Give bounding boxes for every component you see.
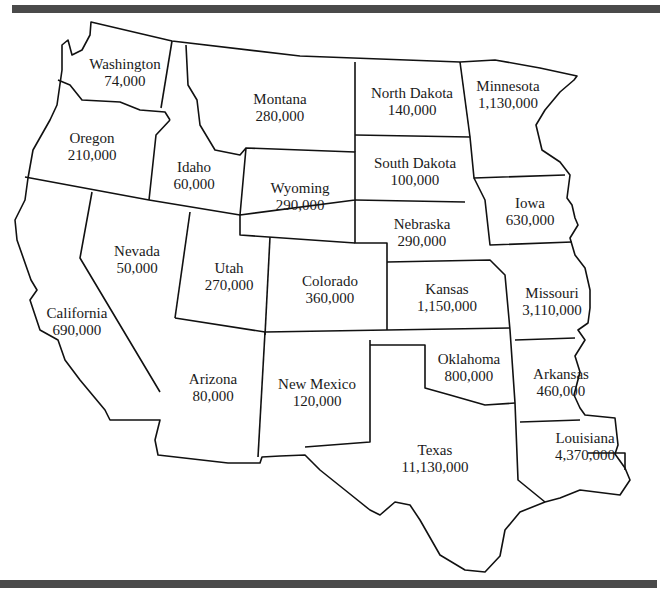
state-value: 50,000: [114, 260, 160, 277]
state-name: Idaho: [173, 159, 214, 176]
state-label-washington: Washington74,000: [89, 56, 160, 90]
state-name: Oklahoma: [438, 351, 500, 368]
state-name: Minnesota: [476, 78, 539, 95]
state-label-california: California690,000: [47, 305, 108, 339]
nd-mn-border: [460, 62, 470, 137]
four-corners-border: [175, 318, 510, 332]
or-id-border: [149, 120, 170, 200]
state-value: 1,130,000: [476, 95, 539, 112]
state-value: 270,000: [205, 277, 254, 294]
sd-ia-border: [470, 137, 565, 178]
state-name: California: [47, 305, 108, 322]
wa-id-border: [161, 41, 172, 108]
state-label-south-dakota: South Dakota100,000: [374, 155, 456, 189]
sd-ne-border: [355, 200, 465, 202]
ut-co-top: [240, 215, 355, 243]
state-value: 100,000: [374, 172, 456, 189]
state-name: North Dakota: [371, 85, 453, 102]
state-label-texas: Texas11,130,000: [402, 442, 469, 476]
state-value: 690,000: [47, 322, 108, 339]
id-mt-border: [186, 45, 246, 155]
state-label-iowa: Iowa630,000: [506, 195, 555, 229]
state-value: 290,000: [270, 197, 329, 214]
state-label-montana: Montana280,000: [253, 91, 306, 125]
state-name: Arkansas: [533, 366, 589, 383]
bottom-rule: [0, 580, 657, 588]
state-name: New Mexico: [278, 376, 356, 393]
state-name: South Dakota: [374, 155, 456, 172]
state-name: Colorado: [302, 273, 358, 290]
state-value: 1,150,000: [417, 298, 477, 315]
state-label-oregon: Oregon210,000: [68, 130, 117, 164]
state-label-minnesota: Minnesota1,130,000: [476, 78, 539, 112]
mo-ar-border: [515, 338, 575, 340]
state-label-new-mexico: New Mexico120,000: [278, 376, 356, 410]
state-name: Kansas: [417, 281, 477, 298]
nd-sd-border: [355, 135, 470, 137]
state-value: 80,000: [189, 388, 237, 405]
state-label-wyoming: Wyoming290,000: [270, 180, 329, 214]
az-nm-border: [258, 332, 265, 457]
state-value: 120,000: [278, 393, 356, 410]
state-label-arkansas: Arkansas460,000: [533, 366, 589, 400]
state-name: Wyoming: [270, 180, 329, 197]
state-value: 290,000: [394, 233, 451, 250]
state-value: 3,110,000: [522, 302, 581, 319]
state-name: Montana: [253, 91, 306, 108]
state-name: Utah: [205, 260, 254, 277]
ut-co-border: [265, 237, 270, 335]
state-value: 140,000: [371, 102, 453, 119]
state-label-colorado: Colorado360,000: [302, 273, 358, 307]
state-value: 74,000: [89, 73, 160, 90]
state-name: Oregon: [68, 130, 117, 147]
state-label-north-dakota: North Dakota140,000: [371, 85, 453, 119]
state-label-arizona: Arizona80,000: [189, 371, 237, 405]
state-value: 210,000: [68, 147, 117, 164]
state-value: 11,130,000: [402, 459, 469, 476]
state-value: 60,000: [173, 176, 214, 193]
state-value: 630,000: [506, 212, 555, 229]
state-name: Washington: [89, 56, 160, 73]
state-label-kansas: Kansas1,150,000: [417, 281, 477, 315]
state-name: Arizona: [189, 371, 237, 388]
state-name: Louisiana: [555, 430, 615, 447]
state-label-utah: Utah270,000: [205, 260, 254, 294]
state-value: 460,000: [533, 383, 589, 400]
state-name: Iowa: [506, 195, 555, 212]
state-label-nevada: Nevada50,000: [114, 243, 160, 277]
state-name: Texas: [402, 442, 469, 459]
nv-ut-border: [175, 212, 190, 318]
state-label-idaho: Idaho60,000: [173, 159, 214, 193]
state-value: 4,370,000: [555, 447, 615, 464]
state-label-louisiana: Louisiana4,370,000: [555, 430, 615, 464]
state-label-missouri: Missouri3,110,000: [522, 285, 581, 319]
state-name: Nebraska: [394, 216, 451, 233]
ca-nv-border: [80, 192, 160, 392]
state-value: 360,000: [302, 290, 358, 307]
ne-co-border: [355, 200, 387, 330]
state-label-nebraska: Nebraska290,000: [394, 216, 451, 250]
state-value: 280,000: [253, 108, 306, 125]
state-value: 800,000: [438, 368, 500, 385]
state-label-oklahoma: Oklahoma800,000: [438, 351, 500, 385]
ar-la-border: [520, 420, 580, 422]
state-name: Nevada: [114, 243, 160, 260]
ks-mo-ok-border: [510, 330, 545, 502]
state-name: Missouri: [522, 285, 581, 302]
